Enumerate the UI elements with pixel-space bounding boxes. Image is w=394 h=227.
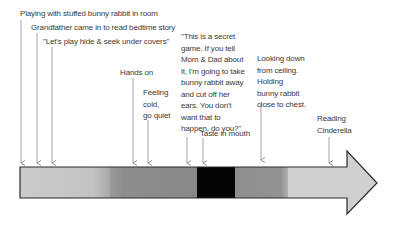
event-taste: Taste in mouth [200,128,250,140]
segment-gray-after [235,167,289,198]
segment-light-end [288,151,377,214]
segment-gray-middle [110,167,198,198]
segment-black-core [197,167,236,198]
event-feeling-cold: Feeling cold, go quiet [143,87,170,122]
event-looking-down: Looking down from ceiling. Holding bunny… [257,53,306,111]
event-secret-quote: "This is a secret game. If you tell Mom … [181,31,245,135]
event-playing: Playing with stuffed bunny rabbit in roo… [20,8,158,20]
event-hands-on: Hands on [120,67,153,79]
segment-light-start [20,167,112,198]
event-hide-seek: "Let's play hide & seek under covers" [43,36,169,48]
event-grandfather: Grandfather came in to read bedtime stor… [31,22,175,34]
event-reading: Reading Cinderella [317,113,352,136]
timeline-arrow [20,151,377,214]
